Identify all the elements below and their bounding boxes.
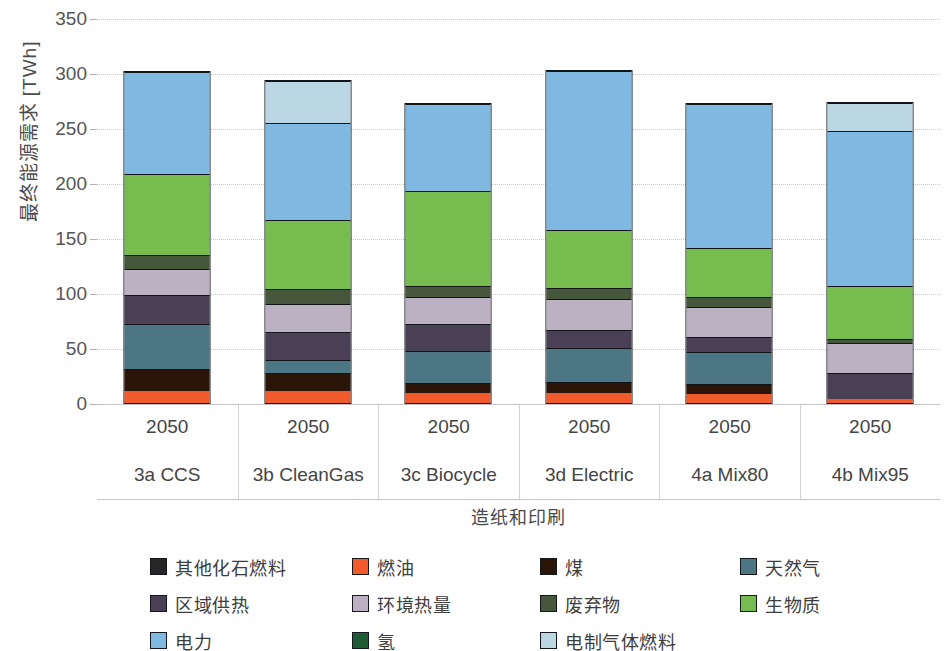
legend-item-ambient_heat[interactable]: 环境热量 — [352, 591, 451, 617]
legend-swatch-icon — [740, 595, 757, 612]
bar-segment[interactable] — [687, 104, 772, 248]
bar-segment[interactable] — [265, 220, 350, 288]
bar-segment[interactable] — [546, 71, 631, 231]
bar-segment[interactable] — [827, 103, 912, 132]
bar-segment[interactable] — [265, 391, 350, 403]
bar-segment[interactable] — [687, 352, 772, 384]
chart-legend: 其他化石燃料燃油煤天然气区域供热环境热量废弃物生物质电力氢电制气体燃料 — [150, 548, 940, 651]
bar-segment[interactable] — [406, 324, 491, 352]
legend-swatch-icon — [540, 558, 557, 575]
bar-segment[interactable] — [125, 255, 210, 269]
bar-segment[interactable] — [125, 174, 210, 254]
y-tick-label: 50 — [27, 338, 87, 360]
bar-slot — [800, 19, 941, 404]
y-tick-label: 300 — [27, 63, 87, 85]
stacked-bar[interactable] — [686, 103, 773, 404]
category-scenario-label: 4b Mix95 — [832, 464, 909, 486]
bar-segment[interactable] — [265, 373, 350, 391]
bar-segment[interactable] — [687, 384, 772, 394]
legend-item-other_fossil[interactable]: 其他化石燃料 — [150, 554, 286, 580]
category-year-label: 2050 — [146, 416, 188, 438]
category-scenario-label: 3a CCS — [134, 464, 201, 486]
category-year-label: 2050 — [428, 416, 470, 438]
legend-item-district_heat[interactable]: 区域供热 — [150, 591, 249, 617]
bar-segment[interactable] — [546, 382, 631, 393]
bar-segment[interactable] — [546, 288, 631, 299]
bar-segment[interactable] — [265, 123, 350, 221]
bar-segment[interactable] — [406, 297, 491, 323]
bar-segment[interactable] — [125, 391, 210, 403]
legend-item-coal[interactable]: 煤 — [540, 554, 584, 580]
legend-label: 其他化石燃料 — [175, 554, 286, 580]
bar-segment[interactable] — [406, 351, 491, 383]
legend-item-biomass[interactable]: 生物质 — [740, 591, 821, 617]
bar-segment[interactable] — [546, 348, 631, 382]
category-cell: 20504b Mix95 — [800, 405, 941, 499]
category-cell: 20503d Electric — [519, 405, 660, 499]
bar-segment[interactable] — [827, 286, 912, 339]
legend-item-waste[interactable]: 废弃物 — [540, 591, 621, 617]
y-tick-mark — [90, 294, 97, 295]
bar-segment[interactable] — [125, 324, 210, 369]
bar-segment[interactable] — [265, 360, 350, 373]
bar-segment[interactable] — [265, 332, 350, 361]
y-tick-mark — [90, 19, 97, 20]
bar-segment[interactable] — [265, 304, 350, 332]
bar-segment[interactable] — [406, 104, 491, 191]
stacked-bar[interactable] — [545, 70, 632, 404]
bar-segment[interactable] — [827, 343, 912, 374]
y-tick-mark — [90, 129, 97, 130]
legend-item-electricity[interactable]: 电力 — [150, 628, 212, 651]
y-tick-label: 0 — [27, 393, 87, 415]
bar-segment[interactable] — [546, 330, 631, 348]
bar-segment[interactable] — [546, 299, 631, 331]
legend-row: 电力氢电制气体燃料 — [150, 622, 940, 651]
legend-item-natural_gas[interactable]: 天然气 — [740, 554, 821, 580]
legend-item-hydrogen[interactable]: 氢 — [352, 628, 396, 651]
bar-segment[interactable] — [687, 297, 772, 307]
legend-swatch-icon — [740, 558, 757, 575]
legend-item-fuel_oil[interactable]: 燃油 — [352, 554, 414, 580]
y-tick-label: 150 — [27, 228, 87, 250]
y-tick-label: 250 — [27, 118, 87, 140]
bar-segment[interactable] — [406, 383, 491, 393]
category-year-label: 2050 — [849, 416, 891, 438]
y-tick-mark — [90, 349, 97, 350]
legend-swatch-icon — [540, 595, 557, 612]
bar-segment[interactable] — [687, 337, 772, 352]
bar-segment[interactable] — [406, 393, 491, 403]
bar-segment[interactable] — [687, 248, 772, 298]
bar-segment[interactable] — [827, 399, 912, 403]
stacked-bar[interactable] — [124, 71, 211, 404]
bar-segment[interactable] — [827, 373, 912, 398]
stacked-bar[interactable] — [405, 103, 492, 404]
legend-swatch-icon — [150, 558, 167, 575]
bar-segment[interactable] — [265, 289, 350, 304]
bar-segment[interactable] — [687, 307, 772, 337]
legend-label: 电力 — [175, 628, 212, 651]
category-scenario-label: 3b CleanGas — [253, 464, 364, 486]
bar-segment[interactable] — [265, 81, 350, 123]
bar-segment[interactable] — [125, 72, 210, 174]
category-scenario-label: 4a Mix80 — [691, 464, 768, 486]
bar-segment[interactable] — [406, 191, 491, 287]
category-year-label: 2050 — [287, 416, 329, 438]
bar-segment[interactable] — [827, 131, 912, 286]
y-tick-label: 100 — [27, 283, 87, 305]
bar-slot — [238, 19, 379, 404]
bar-segment[interactable] — [687, 394, 772, 403]
bar-segment[interactable] — [827, 339, 912, 342]
bar-segment[interactable] — [125, 369, 210, 391]
bar-segment[interactable] — [125, 295, 210, 324]
bar-segment[interactable] — [546, 230, 631, 287]
bar-segment[interactable] — [125, 269, 210, 295]
bar-slot — [659, 19, 800, 404]
bar-segment[interactable] — [546, 393, 631, 403]
bar-segment[interactable] — [406, 286, 491, 297]
legend-item-e_gas[interactable]: 电制气体燃料 — [540, 628, 676, 651]
legend-swatch-icon — [540, 632, 557, 649]
legend-label: 燃油 — [377, 554, 414, 580]
stacked-bar[interactable] — [264, 80, 351, 404]
category-year-label: 2050 — [568, 416, 610, 438]
stacked-bar[interactable] — [826, 102, 913, 404]
